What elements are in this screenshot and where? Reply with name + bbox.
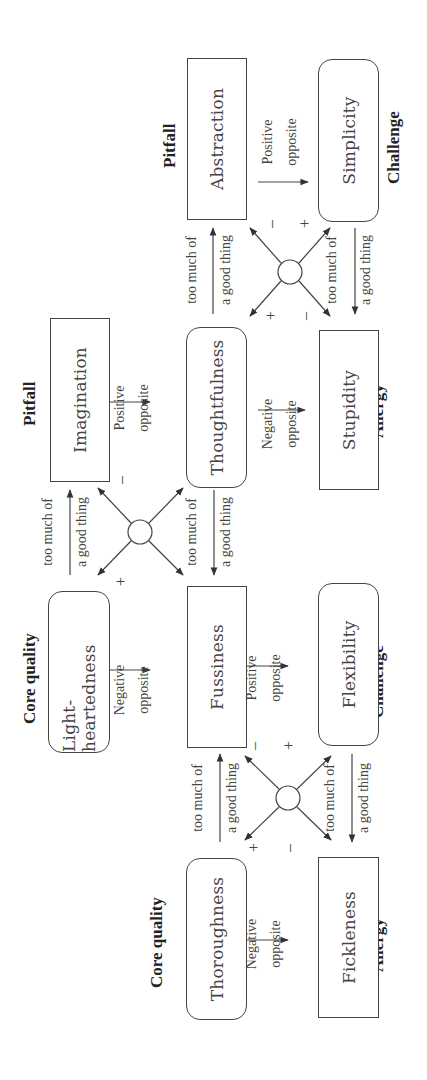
plus-sign: + — [280, 741, 298, 750]
edge-label-positive-opposite: Positive opposite — [240, 628, 288, 728]
edge-label-too-much: too much of a good thing — [318, 748, 376, 848]
edge-label-positive-opposite: Positive opposite — [108, 358, 156, 458]
box-abstraction: Abstraction — [187, 58, 247, 220]
role-label-pitfall: Pitfall — [20, 382, 40, 426]
plus-sign: + — [296, 219, 314, 228]
minus-sign: – — [280, 844, 298, 852]
box-simplicity: Simplicity — [318, 59, 379, 222]
role-label-challenge: Challenge — [384, 111, 404, 184]
edge-label-too-much: too much of a good thing — [320, 220, 378, 320]
plus-sign: + — [112, 577, 130, 586]
role-label-pitfall: Pitfall — [160, 124, 180, 168]
box-fussiness: Fussiness — [187, 586, 247, 748]
box-thoughtfulness: Thoughtfulness — [186, 327, 247, 488]
edge-label-too-much: too much of a good thing — [186, 748, 244, 848]
minus-sign: – — [245, 742, 263, 750]
minus-sign: – — [296, 312, 314, 320]
minus-sign: – — [262, 220, 280, 228]
box-light-heartedness: Light-heartedness — [48, 591, 110, 753]
box-imagination: Imagination — [50, 318, 110, 482]
edge-label-negative-opposite: Negative opposite — [108, 640, 156, 740]
plus-sign: + — [245, 843, 263, 852]
box-stupidity: Stupidity — [319, 330, 379, 490]
edge-label-positive-opposite: Positive opposite — [256, 92, 304, 192]
plus-sign: + — [262, 311, 280, 320]
edge-label-too-much: too much of a good thing — [36, 482, 94, 582]
box-thoroughness: Thoroughness — [186, 858, 247, 1020]
edge-label-negative-opposite: Negative opposite — [240, 894, 288, 994]
role-label-core-quality: Core quality — [20, 633, 40, 724]
role-label-core-quality: Core quality — [147, 897, 167, 988]
box-fickleness: Fickleness — [318, 857, 379, 1018]
edge-label-too-much: too much of a good thing — [180, 482, 238, 582]
edge-label-too-much: too much of a good thing — [180, 220, 238, 320]
minus-sign: – — [112, 476, 130, 484]
core-quadrant-diagram: Core quality Allergy Core quality Challe… — [0, 0, 427, 1080]
edge-label-negative-opposite: Negative opposite — [256, 374, 304, 474]
box-flexibility: Flexibility — [318, 583, 379, 746]
